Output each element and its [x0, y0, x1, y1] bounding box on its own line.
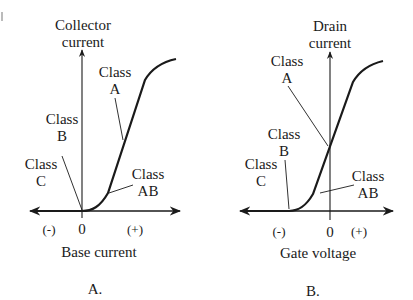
class-a-text: Class [99, 64, 132, 81]
panel-b-class-a-label: Class A [271, 53, 304, 87]
panel-b-class-ab-label: Class AB [352, 168, 385, 202]
panel-b-caption: B. [306, 283, 320, 300]
class-b-text: Class [46, 111, 79, 128]
panel-a-class-a-leader [115, 98, 123, 140]
class-a-letter: A [99, 81, 132, 98]
class-c-text: Class [25, 156, 58, 173]
class-b-letter: B [46, 128, 79, 145]
panel-a-x-axis-label: Base current [61, 244, 136, 261]
panel-b-tick-zero: 0 [326, 224, 334, 241]
panel-a-y-axis-label-line2: current [55, 34, 111, 51]
panel-b-class-b-label: Class B [268, 126, 301, 160]
class-c-letter: C [25, 173, 58, 190]
panel-b-y-axis-label: Drain current [309, 18, 351, 52]
panel-b-x-axis-label: Gate voltage [280, 245, 356, 262]
panel-a-y-axis-label-line1: Collector [55, 17, 111, 34]
class-a-text: Class [271, 53, 304, 70]
panel-a-tick-negative: (-) [43, 221, 56, 238]
panel-a-class-ab-label: Class AB [132, 166, 165, 200]
class-ab-text: Class [132, 166, 165, 183]
panel-b-class-ab-leader [320, 185, 354, 193]
class-b-text: Class [268, 126, 301, 143]
panel-b-tick-negative: (-) [273, 223, 286, 240]
class-a-letter: A [271, 70, 304, 87]
class-ab-letter: AB [132, 183, 165, 200]
class-c-letter: C [245, 173, 278, 190]
class-ab-letter: AB [352, 185, 385, 202]
panel-b-class-c-label: Class C [245, 156, 278, 190]
panel-a-tick-zero: 0 [78, 221, 86, 238]
panel-b-tick-positive: (+) [351, 223, 367, 240]
panel-a-class-b-leader [62, 156, 82, 210]
panel-a-class-a-label: Class A [99, 64, 132, 98]
panel-b-y-axis-label-line1: Drain [309, 18, 351, 35]
class-c-text: Class [245, 156, 278, 173]
panel-b-y-axis-label-line2: current [309, 35, 351, 52]
panel-a-class-ab-leader [109, 185, 133, 193]
panel-b-class-b-leader [285, 160, 289, 209]
panel-a-class-c-label: Class C [25, 156, 58, 190]
panel-a-caption: A. [88, 281, 103, 298]
panel-a-class-b-label: Class B [46, 111, 79, 145]
class-ab-text: Class [352, 168, 385, 185]
panel-a-y-axis-label: Collector current [55, 17, 111, 51]
panel-a-tick-positive: (+) [127, 221, 143, 238]
